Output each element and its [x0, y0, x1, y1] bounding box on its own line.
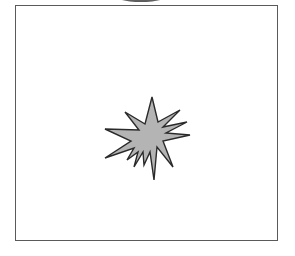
diagram-canvas: [0, 0, 295, 256]
starburst-icon: [105, 97, 190, 180]
starburst-shape: [0, 0, 295, 256]
